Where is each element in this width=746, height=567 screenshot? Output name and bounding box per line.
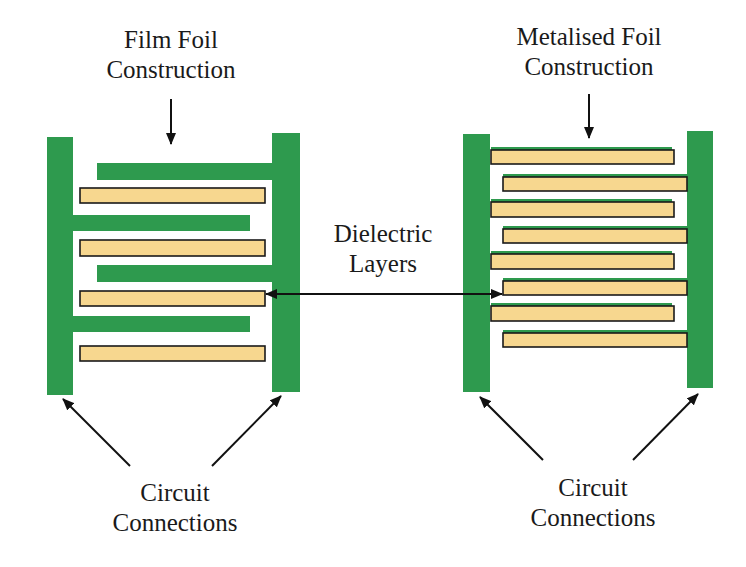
metalised-dielectric-layer <box>491 254 674 269</box>
film-foil-title-line1: Film Foil <box>96 25 246 55</box>
circuit-connections-label-left: Circuit Connections <box>100 478 250 538</box>
dielectric-label-line2: Layers <box>313 249 453 279</box>
metalised-foil-title: Metalised Foil Construction <box>494 22 684 82</box>
metalised-dielectric-layer <box>503 177 687 191</box>
circuit-left-line2: Connections <box>100 508 250 538</box>
circuit-arrow-left-b <box>212 396 281 466</box>
metalised-dielectric-layer <box>491 306 674 321</box>
metalised-dielectric-layer <box>503 333 687 347</box>
film-foil-electrode <box>97 163 272 180</box>
circuit-right-line2: Connections <box>518 503 668 533</box>
metalised-dielectric-layer <box>503 229 687 243</box>
film-foil-electrode <box>73 316 250 332</box>
film-dielectric-layer <box>80 291 265 306</box>
circuit-right-line1: Circuit <box>518 473 668 503</box>
metalised-terminal-right <box>687 131 713 388</box>
metalised-dielectric-layer <box>503 281 687 295</box>
circuit-arrow-left-a <box>63 399 130 466</box>
film-foil-title: Film Foil Construction <box>96 25 246 85</box>
metalised-foil-title-line2: Construction <box>494 52 684 82</box>
metalised-foil-diagram <box>463 131 713 392</box>
film-foil-title-line2: Construction <box>96 55 246 85</box>
film-dielectric-layer <box>80 346 265 361</box>
circuit-arrow-right-b <box>633 394 698 460</box>
dielectric-label-line1: Dielectric <box>313 219 453 249</box>
film-foil-electrode <box>97 265 272 282</box>
metalised-dielectric-layer <box>491 202 674 217</box>
circuit-left-line1: Circuit <box>100 478 250 508</box>
film-dielectric-layer <box>80 240 265 256</box>
circuit-connections-label-right: Circuit Connections <box>518 473 668 533</box>
circuit-arrow-right-a <box>480 397 543 460</box>
film-dielectric-layer <box>80 188 265 203</box>
film-foil-electrode <box>73 215 250 231</box>
dielectric-layers-label: Dielectric Layers <box>313 219 453 279</box>
metalised-terminal-left <box>463 134 490 392</box>
metalised-foil-title-line1: Metalised Foil <box>494 22 684 52</box>
film-terminal-right <box>272 133 300 392</box>
film-terminal-left <box>47 137 73 395</box>
metalised-dielectric-layer <box>491 150 674 164</box>
film-foil-diagram <box>47 133 300 395</box>
